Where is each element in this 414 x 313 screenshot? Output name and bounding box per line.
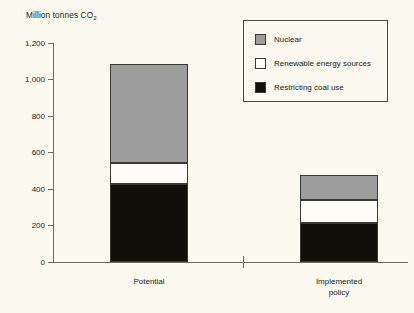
y-tick-label-600: 600 xyxy=(32,148,45,157)
y-tick-label-1000: 1,000 xyxy=(25,75,45,84)
legend-swatch-coal-icon xyxy=(255,82,266,93)
stacked-bar-chart: Million tonnes CO2 1,200 1,000 800 600 4… xyxy=(0,0,414,313)
x-category-label-potential: Potential xyxy=(110,276,188,287)
legend-swatch-renewable-icon xyxy=(255,58,266,69)
y-tick-0 xyxy=(48,262,54,263)
x-axis-break-mark xyxy=(243,256,244,268)
legend-swatch-nuclear-icon xyxy=(255,34,266,45)
y-tick-label-800: 800 xyxy=(32,112,45,121)
y-tick-600 xyxy=(48,152,54,153)
legend: Nuclear Renewable energy sources Restric… xyxy=(243,20,388,102)
y-tick-label-200: 200 xyxy=(32,221,45,230)
y-tick-label-0: 0 xyxy=(41,258,45,267)
bar-segment-renewable[interactable] xyxy=(110,163,188,185)
x-axis-line xyxy=(53,262,408,263)
y-tick-1200 xyxy=(48,43,54,44)
legend-label-renewable: Renewable energy sources xyxy=(274,59,371,68)
y-tick-label-400: 400 xyxy=(32,185,45,194)
y-tick-200 xyxy=(48,225,54,226)
bar-segment-renewable[interactable] xyxy=(300,200,378,223)
legend-item-coal[interactable]: Restricting coal use xyxy=(255,82,344,93)
y-tick-label-1200: 1,200 xyxy=(25,39,45,48)
bar-segment-nuclear[interactable] xyxy=(110,64,188,163)
y-axis-line xyxy=(53,43,54,263)
x-category-label-implemented-policy: Implemented policy xyxy=(300,276,378,298)
legend-item-renewable[interactable]: Renewable energy sources xyxy=(255,58,371,69)
bar-segment-coal[interactable] xyxy=(300,223,378,262)
y-tick-400 xyxy=(48,189,54,190)
y-tick-1000 xyxy=(48,79,54,80)
legend-label-nuclear: Nuclear xyxy=(274,35,302,44)
bar-segment-nuclear[interactable] xyxy=(300,175,378,200)
legend-label-coal: Restricting coal use xyxy=(274,83,344,92)
legend-item-nuclear[interactable]: Nuclear xyxy=(255,34,302,45)
bar-segment-coal[interactable] xyxy=(110,184,188,262)
bar-potential[interactable] xyxy=(110,43,188,262)
y-tick-800 xyxy=(48,116,54,117)
